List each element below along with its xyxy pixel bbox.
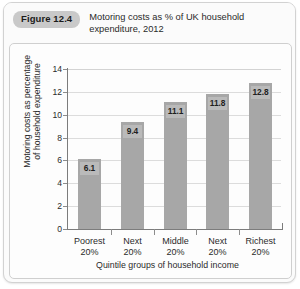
bar: 9.4	[121, 122, 144, 229]
bar-value-label: 9.4	[121, 127, 144, 136]
x-category-label: Richest20%	[239, 236, 282, 258]
x-category-label: Next20%	[196, 236, 239, 258]
bar-value-label: 11.8	[206, 99, 229, 108]
x-category-label-line-1: Middle	[154, 236, 197, 247]
x-category-label-line-2: 20%	[239, 247, 282, 258]
x-category-label-line-2: 20%	[196, 247, 239, 258]
x-category-label: Poorest20%	[68, 236, 111, 258]
x-category-label: Middle20%	[154, 236, 197, 258]
x-category-label-line-2: 20%	[154, 247, 197, 258]
figure-title: Motoring costs as % of UK household expe…	[89, 11, 287, 35]
chart-plot-area: Motoring costs as percentage of househol…	[9, 43, 292, 279]
figure-card: Figure 12.4 Motoring costs as % of UK ho…	[3, 2, 296, 283]
bar: 6.1	[78, 159, 101, 229]
bar-value-label: 6.1	[78, 164, 101, 173]
x-category-label-line-1: Next	[196, 236, 239, 247]
figure-title-line-2: expenditure, 2012	[89, 24, 287, 36]
bar: 11.1	[164, 102, 187, 229]
bar-value-label: 12.8	[249, 88, 272, 97]
figure-number-badge: Figure 12.4	[13, 11, 80, 28]
bar: 12.8	[249, 83, 272, 229]
x-category-label: Next20%	[111, 236, 154, 258]
x-category-label-line-2: 20%	[111, 247, 154, 258]
figure-title-line-1: Motoring costs as % of UK household	[89, 12, 287, 24]
x-category-label-line-1: Poorest	[68, 236, 111, 247]
x-category-label-line-2: 20%	[68, 247, 111, 258]
x-category-label-line-1: Richest	[239, 236, 282, 247]
bar: 11.8	[206, 94, 229, 229]
bar-value-label: 11.1	[164, 107, 187, 116]
x-axis-title: Quintile groups of household income	[50, 260, 285, 270]
x-category-label-line-1: Next	[111, 236, 154, 247]
figure-header: Figure 12.4 Motoring costs as % of UK ho…	[4, 3, 295, 43]
